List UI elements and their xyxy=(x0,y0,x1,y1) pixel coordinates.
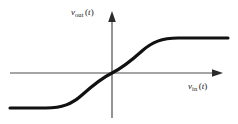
x-axis-label-argument: (t) xyxy=(199,81,208,91)
transfer-characteristic-figure xyxy=(0,0,238,124)
x-axis-label-subscript: in xyxy=(192,85,197,92)
y-axis-label-argument: (t) xyxy=(85,7,94,17)
y-axis-label-subscript: out xyxy=(75,11,84,18)
x-axis-arrowhead xyxy=(212,69,223,77)
y-axis-arrowhead xyxy=(108,11,116,22)
y-axis-label: vout(t) xyxy=(71,8,94,17)
x-axis-label: vin(t) xyxy=(188,82,207,91)
x-axis-label-time-variable: t xyxy=(202,81,205,91)
y-axis-label-time-variable: t xyxy=(88,7,91,17)
